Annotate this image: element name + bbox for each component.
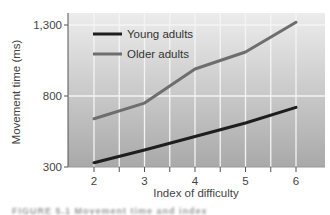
- y-tick-label: 800: [43, 90, 62, 102]
- x-tick-label: 2: [91, 175, 97, 187]
- figure-caption: FIGURE 5.1 Movement time and index: [12, 206, 208, 215]
- x-tick-label: 6: [293, 175, 299, 187]
- x-tick-label: 4: [192, 175, 199, 187]
- plot-background: [68, 13, 325, 167]
- y-tick-label: 300: [43, 161, 62, 173]
- y-tick-label: 1,300: [33, 19, 62, 31]
- x-tick-label: 3: [141, 175, 147, 187]
- line-chart: 3008001,30023456 Young adultsOlder adult…: [0, 0, 330, 215]
- x-tick-label: 5: [242, 175, 248, 187]
- legend-label: Older adults: [127, 48, 189, 60]
- legend-label: Young adults: [127, 28, 193, 40]
- x-axis-title: Index of difficulty: [153, 187, 239, 199]
- y-axis-title: Movement time (ms): [10, 39, 22, 144]
